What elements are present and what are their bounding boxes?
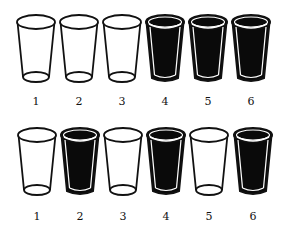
filled-glass-icon: [230, 13, 272, 85]
empty-glass-icon: [102, 126, 144, 198]
glass-number-label: 4: [155, 95, 175, 108]
glass-number-label: 1: [26, 95, 46, 108]
glass-number-label: 3: [113, 210, 133, 223]
empty-glass-icon: [15, 13, 57, 85]
empty-glass-icon: [101, 13, 143, 85]
glass-number-label: 2: [69, 95, 89, 108]
glass-number-label: 5: [198, 95, 218, 108]
filled-glass-icon: [144, 13, 186, 85]
empty-glass-icon: [188, 126, 230, 198]
glass-number-label: 1: [27, 210, 47, 223]
glass-number-label: 4: [156, 210, 176, 223]
filled-glass-icon: [145, 126, 187, 198]
empty-glass-icon: [16, 126, 58, 198]
filled-glass-icon: [59, 126, 101, 198]
glass-number-label: 3: [112, 95, 132, 108]
glass-number-label: 2: [70, 210, 90, 223]
glass-number-label: 6: [243, 210, 263, 223]
filled-glass-icon: [232, 126, 274, 198]
filled-glass-icon: [187, 13, 229, 85]
empty-glass-icon: [58, 13, 100, 85]
glass-number-label: 6: [241, 95, 261, 108]
glass-number-label: 5: [199, 210, 219, 223]
